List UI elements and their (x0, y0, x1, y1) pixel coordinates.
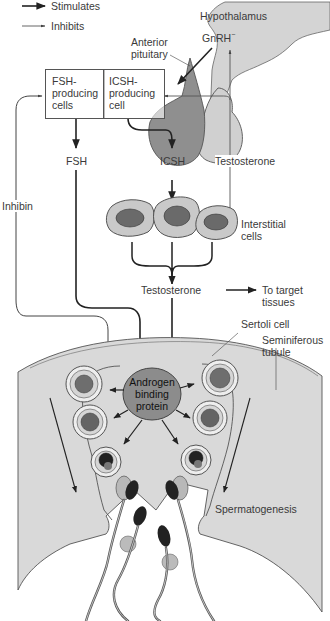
gnrh-text: GnRH (202, 32, 231, 44)
testosterone-label: Testosterone (141, 284, 201, 296)
sperm-head-left-2 (120, 505, 149, 552)
germ-cell-left-3 (91, 447, 121, 477)
sertoli-cell-label: Sertoli cell (241, 318, 289, 330)
germ-cell-left-1 (66, 366, 102, 402)
gnrh-sup: − (231, 31, 235, 38)
germ-cell-right-1 (202, 360, 238, 396)
hypothalamus-label: Hypothalamus (200, 10, 267, 22)
androgen-binding-protein-label: Androgen binding protein (122, 376, 182, 412)
germ-cell-right-3 (181, 445, 211, 475)
icsh-producing-cell-label: ICSH- producing cell (109, 75, 155, 111)
interstitial-cell-1 (106, 200, 154, 237)
interstitial-cell-3 (196, 206, 238, 240)
anterior-pituitary-label: Anterior pituitary (131, 36, 168, 60)
fsh-label: FSH (66, 155, 87, 167)
testosterone-feedback-label: Testosterone (215, 155, 275, 167)
icsh-label: ICSH (160, 155, 185, 167)
inhibin-label: Inhibin (2, 200, 33, 212)
legend-stimulates-label: Stimulates (51, 0, 100, 12)
seminiferous-tubule-label: Seminiferous tubule (262, 334, 323, 358)
legend-inhibits-label: Inhibits (51, 20, 84, 32)
interstitial-cell-2 (154, 197, 200, 238)
interstitial-cells-label: Interstitial cells (241, 218, 286, 242)
germ-cell-left-2 (73, 405, 107, 439)
fsh-producing-cells-label: FSH- producing cells (52, 75, 98, 111)
germ-cell-right-2 (193, 401, 227, 435)
spermatogenesis-label: Spermatogenesis (215, 503, 297, 515)
gnrh-label: GnRH− (202, 29, 235, 44)
target-tissues-label: To target tissues (262, 284, 303, 308)
